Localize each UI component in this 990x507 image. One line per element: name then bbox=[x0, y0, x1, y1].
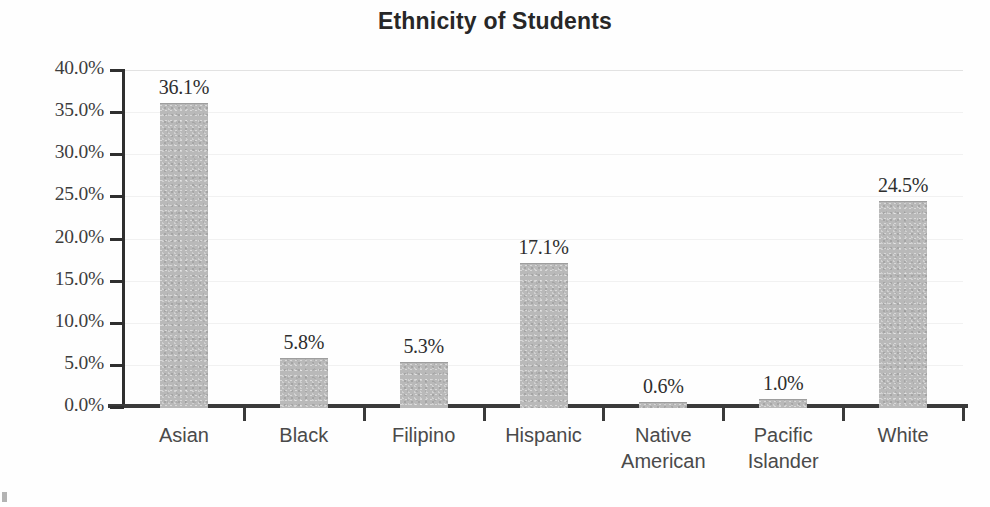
y-axis-tick bbox=[110, 238, 124, 241]
gridline bbox=[124, 112, 963, 113]
y-axis-tick bbox=[110, 280, 124, 283]
y-axis-tick-label: 20.0% bbox=[8, 226, 104, 248]
bar-value-label: 1.0% bbox=[723, 372, 843, 395]
x-axis-tick bbox=[602, 408, 605, 421]
y-axis-tick-label: 0.0% bbox=[8, 394, 104, 416]
bar[interactable] bbox=[400, 362, 448, 408]
y-axis-tick bbox=[110, 322, 124, 325]
y-axis-tick-label: 10.0% bbox=[8, 310, 104, 332]
gridline bbox=[124, 196, 963, 197]
bar-value-label: 0.6% bbox=[603, 375, 723, 398]
y-axis-tick bbox=[110, 111, 124, 114]
chart-figure: Ethnicity of Students 40.0%35.0%30.0%25.… bbox=[0, 0, 990, 507]
y-axis-tick bbox=[110, 406, 124, 409]
y-axis-tick-label: 40.0% bbox=[8, 57, 104, 79]
x-axis-tick bbox=[243, 408, 246, 421]
bar-value-label: 17.1% bbox=[484, 236, 604, 259]
bar-value-label: 5.3% bbox=[364, 335, 484, 358]
x-axis-tick bbox=[842, 408, 845, 421]
bar[interactable] bbox=[879, 201, 927, 408]
gridline bbox=[124, 154, 963, 155]
bar[interactable] bbox=[639, 402, 687, 408]
chart-title: Ethnicity of Students bbox=[0, 8, 990, 35]
bar-value-label: 5.8% bbox=[244, 331, 364, 354]
x-axis-category-label: White bbox=[823, 422, 983, 448]
y-axis-tick-label: 25.0% bbox=[8, 183, 104, 205]
y-axis-tick-label: 30.0% bbox=[8, 141, 104, 163]
bar[interactable] bbox=[280, 358, 328, 408]
y-axis-tick bbox=[110, 195, 124, 198]
y-axis-tick-label: 35.0% bbox=[8, 99, 104, 121]
y-axis-tick-label: 15.0% bbox=[8, 268, 104, 290]
bar-value-label: 36.1% bbox=[124, 76, 244, 99]
bar[interactable] bbox=[520, 263, 568, 408]
x-axis-tick bbox=[962, 408, 965, 421]
bar-value-label: 24.5% bbox=[843, 174, 963, 197]
y-axis-tick bbox=[110, 364, 124, 367]
y-axis-tick bbox=[110, 69, 124, 72]
x-axis-tick bbox=[483, 408, 486, 421]
bar[interactable] bbox=[759, 399, 807, 408]
x-axis-tick bbox=[722, 408, 725, 421]
bar[interactable] bbox=[160, 103, 208, 408]
y-axis-tick-label: 5.0% bbox=[8, 352, 104, 374]
scan-artifact bbox=[2, 492, 7, 502]
y-axis-labels: 40.0%35.0%30.0%25.0%20.0%15.0%10.0%5.0%0… bbox=[0, 0, 104, 507]
x-axis-tick bbox=[363, 408, 366, 421]
y-axis-tick bbox=[110, 153, 124, 156]
